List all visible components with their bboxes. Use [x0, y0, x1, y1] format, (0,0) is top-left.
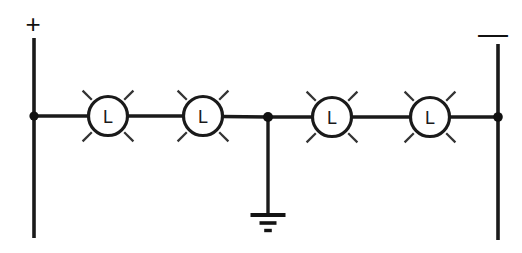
lamp-2-ray-ne	[219, 91, 228, 100]
positive-terminal-label: +	[25, 9, 40, 39]
lamp-4[interactable]: L	[405, 92, 456, 143]
lamp-1-ray-se	[124, 132, 133, 141]
lamp-2[interactable]: L	[178, 91, 229, 142]
lamp-4-ray-sw	[405, 133, 414, 142]
lamp-4-label: L	[425, 108, 435, 128]
lamp-2-label: L	[198, 107, 208, 127]
lamp-1-ray-sw	[83, 132, 92, 141]
lamp-3-ray-nw	[307, 92, 316, 101]
negative-terminal-label: —	[478, 17, 508, 50]
lamp-1-ray-ne	[124, 91, 133, 100]
wire-lamp-2-to-ground-node	[222, 117, 268, 118]
lamp-3-ray-sw	[307, 133, 316, 142]
lamp-4-ray-nw	[405, 92, 414, 101]
lamp-3-ray-se	[348, 133, 357, 142]
lamp-3-label: L	[327, 108, 337, 128]
circuit-svg: + — L	[0, 0, 522, 253]
lamp-2-ray-se	[219, 132, 228, 141]
lamp-1-label: L	[103, 107, 113, 127]
lamp-3[interactable]: L	[307, 92, 358, 143]
lamp-1-ray-nw	[83, 91, 92, 100]
left-rail-junction-node	[29, 111, 38, 120]
lamp-2-ray-nw	[178, 91, 187, 100]
right-rail-junction-node	[493, 112, 503, 122]
lamp-3-ray-ne	[348, 92, 357, 101]
lamp-1[interactable]: L	[83, 91, 134, 142]
lamp-4-ray-se	[446, 133, 455, 142]
ground-symbol	[251, 215, 286, 231]
lamp-2-ray-sw	[178, 132, 187, 141]
lamp-4-ray-ne	[446, 92, 455, 101]
center-ground-junction-node	[263, 112, 273, 122]
circuit-diagram-canvas: + — L	[0, 0, 522, 253]
